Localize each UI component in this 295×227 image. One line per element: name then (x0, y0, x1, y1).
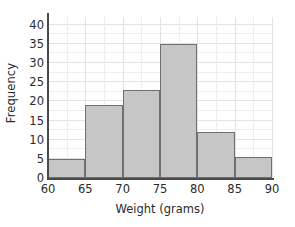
histogram-bar (235, 157, 272, 178)
y-axis-line (47, 13, 49, 179)
y-axis-tick-label: 30 (22, 56, 44, 70)
gridline-vertical (272, 17, 273, 178)
y-axis-title-label: Frequency (4, 62, 18, 122)
x-axis-tick-label: 75 (153, 182, 168, 196)
y-axis-tick-label: 10 (22, 133, 44, 147)
y-axis-tick-label: 25 (22, 75, 44, 89)
histogram-chart: Frequency 0510152025303540 6065707580859… (0, 0, 295, 227)
plot-area (48, 17, 272, 178)
histogram-bar (123, 90, 160, 178)
y-axis-tick-label: 40 (22, 18, 44, 32)
x-axis-line (47, 178, 274, 180)
x-axis-tick-label: 65 (78, 182, 93, 196)
x-axis-tick-label: 80 (190, 182, 205, 196)
x-axis-tick-label: 90 (265, 182, 280, 196)
histogram-bar (197, 132, 234, 178)
histogram-bar (48, 159, 85, 178)
y-axis-tick-label: 15 (22, 114, 44, 128)
y-axis-tick-label: 5 (22, 152, 44, 166)
bar-series (48, 17, 272, 178)
histogram-bar (160, 44, 197, 178)
histogram-bar (85, 105, 122, 178)
x-axis-title: Weight (grams) (48, 202, 272, 216)
x-axis-tick-label: 70 (115, 182, 130, 196)
x-axis-tick-labels: 60657075808590 (48, 182, 272, 200)
y-axis-tick-label: 35 (22, 37, 44, 51)
y-axis-title: Frequency (0, 0, 22, 185)
y-axis-tick-label: 20 (22, 94, 44, 108)
x-axis-tick-label: 60 (41, 182, 56, 196)
x-axis-tick-label: 85 (227, 182, 242, 196)
